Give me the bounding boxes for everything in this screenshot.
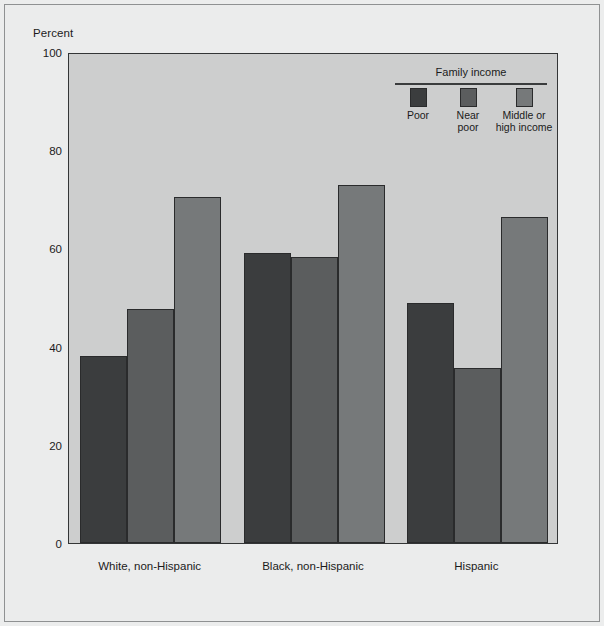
x-axis-group-label: White, non-Hispanic [98,560,201,572]
x-axis-group-label: Black, non-Hispanic [262,560,364,572]
bar [244,253,291,543]
y-axis-caption: Percent [33,27,73,39]
legend-label: Poor [395,110,441,122]
legend-label: Near poor [445,110,491,133]
bar [407,303,454,543]
legend-swatch [460,88,477,107]
bar [174,197,221,543]
bar [338,185,385,543]
x-axis-group-label: Hispanic [454,560,498,572]
legend-swatch [516,88,533,107]
y-axis-tick-label: 100 [28,47,62,59]
y-axis-tick-label: 20 [28,440,62,452]
legend-swatch [410,88,427,107]
bar [127,309,174,543]
legend-entry: Poor [395,88,441,122]
legend-title: Family income [395,66,547,78]
legend-entry: Middle or high income [491,88,557,133]
legend-entry: Near poor [445,88,491,133]
y-axis-tick-labels: 020406080100 [22,53,62,544]
y-axis-tick-label: 80 [28,145,62,157]
chart-figure: Percent 020406080100 White, non-Hispanic… [0,0,604,626]
bar [501,217,548,543]
y-axis-tick-label: 40 [28,342,62,354]
bar [80,356,127,543]
bar [454,368,501,543]
legend-label: Middle or high income [491,110,557,133]
bar [291,257,338,543]
y-axis-tick-label: 60 [28,243,62,255]
legend: Family income PoorNear poorMiddle or hig… [395,66,547,142]
y-axis-tick-label: 0 [28,538,62,550]
legend-divider [395,83,547,85]
